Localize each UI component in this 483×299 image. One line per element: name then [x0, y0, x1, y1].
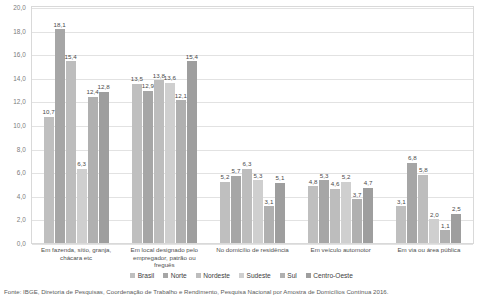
bar-slot: 18,1: [55, 7, 65, 243]
legend-item[interactable]: Norte: [163, 272, 187, 279]
legend-swatch-icon: [130, 273, 135, 278]
bar-value-label: 12,9: [142, 82, 154, 89]
bar-value-label: 4,8: [309, 178, 318, 185]
legend-item[interactable]: Centro-Oeste: [306, 272, 353, 279]
legend-item[interactable]: Sudeste: [239, 272, 271, 279]
bar: [352, 199, 362, 243]
legend-item[interactable]: Nordeste: [196, 272, 230, 279]
x-axis-category-label: Em veículo automotor: [297, 246, 385, 270]
bar-value-label: 5,2: [221, 173, 230, 180]
y-axis-tick: 18,0: [13, 27, 26, 34]
y-axis-tick: 12,0: [13, 98, 26, 105]
x-axis-category-labels: Em fazenda, sítio, granja, chácara etcEm…: [32, 246, 473, 270]
bar-slot: 2,0: [429, 7, 439, 243]
bar-slot: 5,1: [275, 7, 285, 243]
bar: [440, 230, 450, 243]
bar-value-label: 3,1: [265, 198, 274, 205]
y-axis-tick: 20,0: [13, 4, 26, 11]
bar-slot: 4,8: [308, 7, 318, 243]
legend-label: Centro-Oeste: [313, 272, 353, 279]
bar-value-label: 2,5: [452, 205, 461, 212]
bar-value-label: 5,3: [320, 172, 329, 179]
y-axis-tick: 0,0: [17, 240, 26, 247]
bar: [264, 206, 274, 243]
chart-legend: BrasilNorteNordesteSudesteSulCentro-Oest…: [0, 272, 483, 279]
legend-swatch-icon: [280, 273, 285, 278]
bar: [88, 97, 98, 243]
y-axis-tick: 14,0: [13, 74, 26, 81]
bar-value-label: 13,6: [164, 74, 176, 81]
x-axis-category-label: Em fazenda, sítio, granja, chácara etc: [32, 246, 120, 270]
y-axis-tick: 4,0: [17, 192, 26, 199]
legend-label: Nordeste: [203, 272, 230, 279]
y-axis-tick: 2,0: [17, 216, 26, 223]
bar-value-label: 2,0: [430, 211, 439, 218]
bar-slot: 13,6: [165, 7, 175, 243]
bar-slot: 5,3: [319, 7, 329, 243]
legend-item[interactable]: Sul: [280, 272, 297, 279]
bar-value-label: 12,1: [175, 92, 187, 99]
bar-value-label: 13,5: [131, 75, 143, 82]
bar: [363, 188, 373, 243]
bar-value-label: 12,8: [97, 83, 109, 90]
bar-slot: 12,4: [88, 7, 98, 243]
bar: [154, 80, 164, 243]
bar-slot: 2,5: [451, 7, 461, 243]
bar-slot: 13,5: [132, 7, 142, 243]
bar: [66, 61, 76, 243]
bar-value-label: 3,1: [397, 198, 406, 205]
bar: [242, 169, 252, 243]
bar-value-label: 5,3: [254, 172, 263, 179]
bar: [341, 182, 351, 243]
bar: [55, 29, 65, 243]
bar-value-label: 15,4: [186, 53, 198, 60]
bar-group: 10,718,115,46,312,412,8: [32, 7, 120, 243]
bar: [330, 189, 340, 243]
legend-swatch-icon: [239, 273, 244, 278]
gridline: [32, 244, 473, 245]
bar: [308, 186, 318, 243]
y-axis-tick: 16,0: [13, 51, 26, 58]
bar-slot: 5,2: [341, 7, 351, 243]
bar-slot: 4,7: [363, 7, 373, 243]
bar-value-label: 10,7: [42, 108, 54, 115]
bar: [253, 180, 263, 243]
bar: [165, 83, 175, 243]
legend-item[interactable]: Brasil: [130, 272, 154, 279]
bar: [220, 182, 230, 243]
legend-swatch-icon: [163, 273, 168, 278]
x-axis-category-label: Em local designado pelo empregador, patr…: [120, 246, 208, 270]
bar-value-label: 4,7: [364, 179, 373, 186]
y-axis-tick: 8,0: [17, 145, 26, 152]
bar-slot: 12,8: [99, 7, 109, 243]
bar-slot: 13,8: [154, 7, 164, 243]
bar: [396, 206, 406, 243]
bar-slot: 12,1: [176, 7, 186, 243]
bar-slot: 5,2: [220, 7, 230, 243]
bar-value-label: 6,3: [77, 160, 86, 167]
y-axis-tick-labels: 0,02,04,06,08,010,012,014,016,018,020,0: [0, 6, 29, 244]
bar-slot: 12,9: [143, 7, 153, 243]
bar-slot: 3,1: [396, 7, 406, 243]
bar-slot: 3,1: [264, 7, 274, 243]
bar-group: 4,85,34,65,23,74,7: [297, 7, 385, 243]
bar: [77, 169, 87, 243]
bar-value-label: 5,7: [232, 167, 241, 174]
bar: [143, 91, 153, 243]
y-axis-tick: 10,0: [13, 122, 26, 129]
bar-slot: 4,6: [330, 7, 340, 243]
bar-value-label: 5,1: [276, 174, 285, 181]
bar-slot: 5,3: [253, 7, 263, 243]
bar: [44, 117, 54, 243]
bar-slot: 15,4: [66, 7, 76, 243]
legend-swatch-icon: [196, 273, 201, 278]
x-axis-category-label: No domicílio de residência: [208, 246, 296, 270]
legend-label: Norte: [171, 272, 187, 279]
bar-group: 13,512,913,813,612,115,4: [120, 7, 208, 243]
bar-value-label: 5,8: [419, 166, 428, 173]
legend-swatch-icon: [306, 273, 311, 278]
bar-slot: 6,3: [242, 7, 252, 243]
source-note: Fonte: IBGE, Diretoria de Pesquisas, Coo…: [4, 288, 388, 295]
bar: [132, 84, 142, 243]
bar-value-label: 6,8: [408, 154, 417, 161]
